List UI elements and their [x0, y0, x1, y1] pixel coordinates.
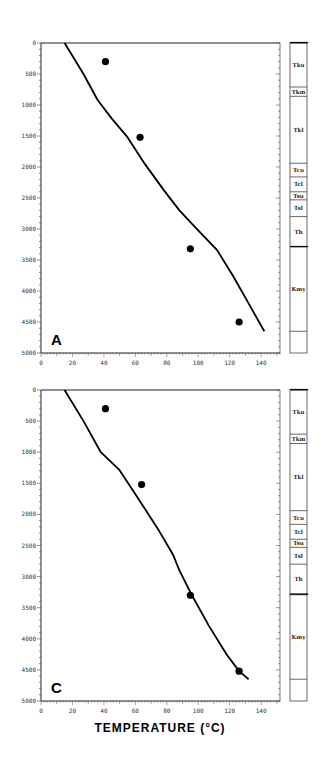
y-tick-label: 1000: [22, 448, 37, 455]
strat-unit-label: Tsl: [294, 553, 303, 559]
strat-unit-label: Tsl: [294, 205, 303, 211]
x-tick-label: 40: [100, 707, 108, 714]
strat-unit-label: Tku: [293, 62, 305, 68]
strat-unit-label: Tcu: [293, 167, 304, 173]
strat-unit-label: Tkm: [292, 89, 306, 95]
y-tick-label: 4500: [22, 666, 37, 673]
y-tick-label: 500: [25, 70, 36, 77]
panel-c: 0500100015002000250030003500400045005000…: [22, 386, 308, 714]
y-tick-label: 0: [32, 386, 36, 393]
y-tick-label: 3000: [22, 225, 37, 232]
panel-letter: A: [51, 331, 62, 348]
y-tick-label: 5000: [22, 349, 37, 356]
strat-unit-label: Th: [294, 229, 302, 235]
y-tick-label: 3500: [22, 256, 37, 263]
y-tick-label: 3000: [22, 573, 37, 580]
measured-temperature-point: [102, 405, 109, 412]
x-tick-label: 80: [163, 359, 171, 366]
x-tick-label: 100: [193, 359, 204, 366]
strat-unit-label: Tsu: [293, 540, 304, 546]
measured-temperature-point: [187, 245, 194, 252]
x-axis-title: TEMPERATURE (°C): [94, 721, 225, 735]
y-tick-label: 0: [32, 39, 36, 46]
measured-temperature-point: [138, 481, 145, 488]
y-tick-label: 2000: [22, 163, 37, 170]
x-tick-label: 140: [256, 359, 267, 366]
temperature-profile-line: [65, 43, 265, 331]
measured-temperature-point: [236, 668, 243, 675]
panel-a: 0500100015002000250030003500400045005000…: [22, 39, 308, 366]
x-tick-label: 120: [224, 707, 235, 714]
y-tick-label: 2500: [22, 194, 37, 201]
x-tick-label: 60: [132, 359, 140, 366]
strat-unit-label: Th: [294, 576, 302, 582]
strat-unit-label: Tkm: [292, 436, 306, 442]
measured-temperature-point: [236, 318, 243, 325]
y-tick-label: 500: [25, 417, 36, 424]
y-tick-label: 2000: [22, 510, 37, 517]
x-tick-label: 100: [193, 707, 204, 714]
x-tick-label: 40: [100, 359, 108, 366]
strat-unit-label: Tcl: [294, 181, 303, 187]
temperature-profile-line: [65, 390, 249, 679]
strat-unit-label: Kmy: [292, 286, 307, 293]
x-tick-label: 80: [163, 707, 171, 714]
strat-unit-label: Tkl: [294, 127, 304, 133]
y-tick-label: 1000: [22, 101, 37, 108]
figure-canvas: 0500100015002000250030003500400045005000…: [0, 0, 327, 758]
y-tick-label: 4000: [22, 287, 37, 294]
measured-temperature-point: [136, 134, 143, 141]
x-tick-label: 20: [69, 707, 77, 714]
x-tick-label: 0: [39, 707, 43, 714]
x-tick-label: 60: [132, 707, 140, 714]
y-tick-label: 2500: [22, 542, 37, 549]
measured-temperature-point: [187, 592, 194, 599]
strat-unit-label: Tcu: [293, 515, 304, 521]
strat-unit-label: Tcl: [294, 529, 303, 535]
strat-unit-label: Tsu: [293, 193, 304, 199]
y-tick-label: 3500: [22, 604, 37, 611]
y-tick-label: 1500: [22, 479, 37, 486]
y-tick-label: 4500: [22, 318, 37, 325]
strat-unit-label: Kmy: [292, 634, 307, 641]
x-tick-label: 140: [256, 707, 267, 714]
panel-letter: C: [51, 679, 62, 696]
x-tick-label: 20: [69, 359, 77, 366]
y-tick-label: 4000: [22, 635, 37, 642]
measured-temperature-point: [102, 58, 109, 65]
strat-unit-label: Tku: [293, 409, 305, 415]
x-tick-label: 0: [39, 359, 43, 366]
strat-unit-label: Tkl: [294, 474, 304, 480]
y-tick-label: 5000: [22, 697, 37, 704]
y-tick-label: 1500: [22, 132, 37, 139]
x-tick-label: 120: [224, 359, 235, 366]
